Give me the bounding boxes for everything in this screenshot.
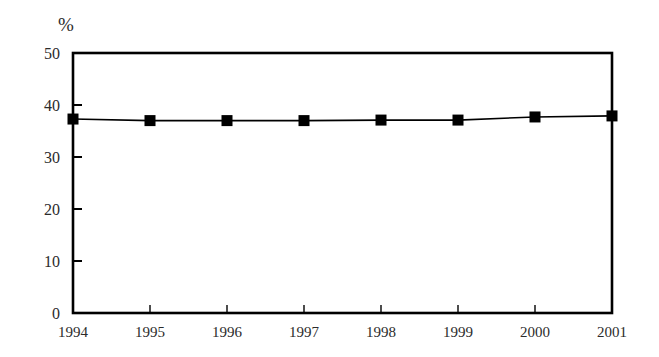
data-point-2001 (607, 110, 618, 121)
data-point-1994 (68, 114, 79, 125)
plot-area (0, 0, 659, 357)
y-axis-ticks (73, 105, 82, 261)
series-markers (68, 110, 618, 126)
data-point-1997 (299, 115, 310, 126)
plot-frame (73, 53, 612, 313)
line-chart: % 50 40 30 20 10 0 1994 1995 1996 1997 1… (0, 0, 659, 357)
data-point-2000 (530, 111, 541, 122)
data-point-1996 (222, 115, 233, 126)
data-point-1999 (453, 115, 464, 126)
data-point-1995 (145, 115, 156, 126)
data-point-1998 (376, 115, 387, 126)
